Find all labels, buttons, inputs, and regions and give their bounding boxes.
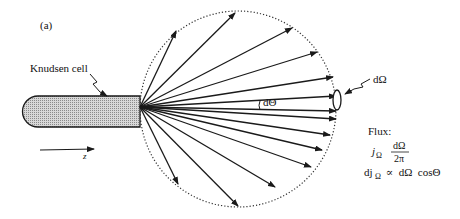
flux-ray-arrow <box>140 31 176 107</box>
angle-label: dΘ <box>263 96 277 108</box>
flux-title: Flux: <box>368 125 391 137</box>
solid-angle-element <box>333 90 341 110</box>
molecular-flux-rays <box>140 13 336 206</box>
flux-formulas: Flux: j Ω dΩ 2π dj Ω ∝ dΩ cosΘ <box>364 125 441 181</box>
z-axis-arrow <box>40 149 94 150</box>
knudsen-cell-diagram: (a) Knudsen cell dΘ dΩ z Flux: j Ω dΩ 2π… <box>0 0 460 219</box>
panel-label: (a) <box>40 19 53 32</box>
solid-angle-pointer-arrow <box>345 79 370 94</box>
knudsen-cell <box>23 96 141 127</box>
knudsen-cell-label: Knudsen cell <box>30 62 88 74</box>
flux-proportionality: ∝ dΩ cosΘ <box>383 166 441 178</box>
flux-ray-arrow <box>140 107 322 150</box>
cell-pointer-arrow <box>90 74 107 96</box>
flux-dj-subscript: Ω <box>375 172 381 181</box>
flux-fraction-numerator: dΩ <box>393 140 405 151</box>
angle-arc-icon <box>259 101 260 110</box>
solid-angle-label: dΩ <box>373 73 387 85</box>
flux-j-subscript: Ω <box>376 151 382 160</box>
z-axis-label: z <box>82 151 87 161</box>
flux-dj-prefix: dj <box>364 166 373 178</box>
flux-ray-arrow <box>140 107 330 135</box>
flux-j-symbol: j <box>370 145 375 157</box>
flux-fraction-denominator: 2π <box>394 153 404 164</box>
